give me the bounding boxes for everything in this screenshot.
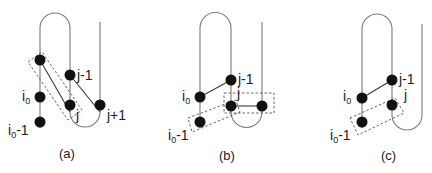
node-i0-minus-1 <box>35 117 46 128</box>
node-i0 <box>357 93 368 104</box>
node-j-minus-1 <box>226 75 237 86</box>
panel-b: j-1 i0 j i0-1 (b) <box>168 12 274 163</box>
label-i0-minus-1: i0-1 <box>168 127 189 145</box>
label-j: j <box>75 107 79 123</box>
node-j-minus-1 <box>65 70 76 81</box>
label-i0: i0 <box>22 88 30 106</box>
label-j-plus-1: j+1 <box>106 107 126 123</box>
label-i0-minus-1: i0-1 <box>330 127 351 145</box>
label-i0: i0 <box>343 88 351 106</box>
node-j <box>65 100 76 111</box>
caption-c: (c) <box>381 148 396 163</box>
node-j-plus-1 <box>257 101 268 112</box>
panel-a: j-1 i0 j j+1 i0-1 (a) <box>8 13 126 161</box>
node-j <box>387 100 398 111</box>
label-j: j <box>403 87 407 103</box>
node-i0 <box>35 92 46 103</box>
label-i0-minus-1: i0-1 <box>8 122 29 140</box>
node-j-minus-1 <box>387 75 398 86</box>
label-j-minus-1: j-1 <box>76 67 93 83</box>
panel-c: j-1 i0 j i0-1 (c) <box>330 14 422 163</box>
node-i0-minus-1 <box>195 117 206 128</box>
label-j: j <box>236 85 240 101</box>
node-j <box>226 101 237 112</box>
node-top <box>35 55 46 66</box>
node-j-plus-1 <box>95 100 106 111</box>
node-i0 <box>195 92 206 103</box>
caption-a: (a) <box>59 146 75 161</box>
node-i0-minus-1 <box>357 117 368 128</box>
figure-canvas: j-1 i0 j j+1 i0-1 (a) j-1 i0 j i0-1 (b) … <box>0 0 432 173</box>
label-i0: i0 <box>182 88 190 106</box>
caption-b: (b) <box>219 148 235 163</box>
label-j-minus-1: j-1 <box>398 71 415 87</box>
